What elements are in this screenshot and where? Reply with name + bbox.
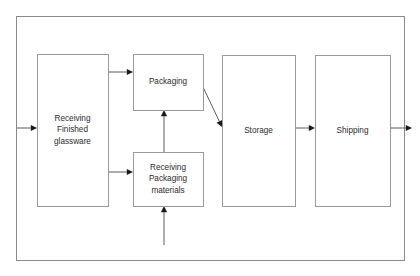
receiving-packaging-materials-node-label-line-0: Receiving bbox=[150, 163, 186, 172]
packaging-node[interactable]: Packaging bbox=[134, 55, 204, 111]
packaging-node-label-line-0: Packaging bbox=[149, 77, 188, 86]
shipping-node[interactable]: Shipping bbox=[316, 56, 391, 207]
receiving-packaging-materials-node[interactable]: ReceivingPackagingmaterials bbox=[134, 153, 204, 207]
receiving-packaging-materials-node-label-line-1: Packaging bbox=[149, 174, 188, 183]
receiving-finished-glassware-node-label-line-0: Receiving bbox=[55, 114, 91, 123]
receiving-packaging-materials-node-label-line-2: materials bbox=[151, 186, 184, 195]
receiving-finished-glassware-node[interactable]: ReceivingFinishedglassware bbox=[38, 55, 109, 207]
receiving-finished-glassware-node-label-line-1: Finished bbox=[57, 125, 88, 134]
flowchart-diagram: ReceivingFinishedglasswarePackagingRecei… bbox=[0, 0, 420, 276]
edge-shipping-to-external-output-arrowhead-icon bbox=[406, 125, 412, 131]
storage-node-label-line-0: Storage bbox=[244, 126, 273, 135]
storage-node[interactable]: Storage bbox=[223, 56, 296, 207]
flowchart-canvas: ReceivingFinishedglasswarePackagingRecei… bbox=[0, 0, 420, 276]
shipping-node-label-line-0: Shipping bbox=[337, 126, 369, 135]
receiving-finished-glassware-node-label-line-2: glassware bbox=[54, 137, 91, 146]
